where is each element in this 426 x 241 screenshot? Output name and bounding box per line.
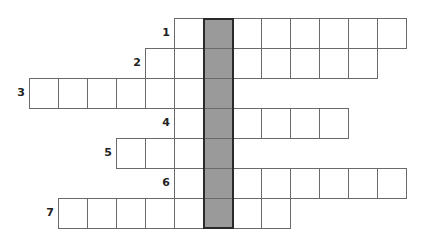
crossword-cell[interactable] bbox=[174, 18, 204, 49]
clue-number: 6 bbox=[158, 177, 170, 189]
shaded-answer-cell[interactable] bbox=[203, 108, 233, 139]
shaded-answer-cell[interactable] bbox=[203, 48, 233, 79]
crossword-cell[interactable] bbox=[87, 78, 117, 109]
crossword-cell[interactable] bbox=[261, 168, 291, 199]
clue-number: 1 bbox=[158, 27, 170, 39]
crossword-cell[interactable] bbox=[290, 48, 320, 79]
shaded-answer-cell[interactable] bbox=[203, 18, 233, 49]
crossword-cell[interactable] bbox=[319, 108, 349, 139]
crossword-cell[interactable] bbox=[116, 198, 146, 229]
crossword-cell[interactable] bbox=[174, 138, 204, 169]
crossword-cell[interactable] bbox=[377, 18, 407, 49]
crossword-cell[interactable] bbox=[261, 18, 291, 49]
crossword-cell[interactable] bbox=[58, 78, 88, 109]
crossword-cell[interactable] bbox=[290, 108, 320, 139]
crossword-cell[interactable] bbox=[174, 198, 204, 229]
clue-number: 5 bbox=[100, 147, 112, 159]
crossword-cell[interactable] bbox=[232, 198, 262, 229]
shaded-answer-cell[interactable] bbox=[203, 198, 233, 229]
crossword-cell[interactable] bbox=[348, 18, 378, 49]
crossword-cell[interactable] bbox=[261, 48, 291, 79]
crossword-cell[interactable] bbox=[174, 108, 204, 139]
crossword-cell[interactable] bbox=[174, 48, 204, 79]
crossword-cell[interactable] bbox=[87, 198, 117, 229]
crossword-cell[interactable] bbox=[145, 138, 175, 169]
crossword-cell[interactable] bbox=[232, 168, 262, 199]
crossword-cell[interactable] bbox=[290, 18, 320, 49]
crossword-cell[interactable] bbox=[29, 78, 59, 109]
crossword-cell[interactable] bbox=[261, 108, 291, 139]
crossword-cell[interactable] bbox=[174, 78, 204, 109]
crossword-cell[interactable] bbox=[348, 168, 378, 199]
crossword-cell[interactable] bbox=[145, 198, 175, 229]
crossword-cell[interactable] bbox=[145, 78, 175, 109]
crossword-cell[interactable] bbox=[348, 48, 378, 79]
crossword-cell[interactable] bbox=[174, 168, 204, 199]
crossword-cell[interactable] bbox=[116, 138, 146, 169]
shaded-answer-cell[interactable] bbox=[203, 138, 233, 169]
crossword-cell[interactable] bbox=[319, 18, 349, 49]
shaded-answer-cell[interactable] bbox=[203, 168, 233, 199]
crossword-cell[interactable] bbox=[232, 48, 262, 79]
crossword-cell[interactable] bbox=[232, 18, 262, 49]
clue-number: 4 bbox=[158, 117, 170, 129]
crossword-cell[interactable] bbox=[319, 168, 349, 199]
clue-number: 7 bbox=[42, 207, 54, 219]
crossword-cell[interactable] bbox=[58, 198, 88, 229]
clue-number: 3 bbox=[13, 87, 25, 99]
crossword-cell[interactable] bbox=[116, 78, 146, 109]
crossword-cell[interactable] bbox=[145, 48, 175, 79]
clue-number: 2 bbox=[129, 57, 141, 69]
crossword-cell[interactable] bbox=[319, 48, 349, 79]
crossword-cell[interactable] bbox=[290, 168, 320, 199]
crossword-cell[interactable] bbox=[261, 198, 291, 229]
shaded-answer-cell[interactable] bbox=[203, 78, 233, 109]
crossword-cell[interactable] bbox=[377, 168, 407, 199]
crossword-cell[interactable] bbox=[232, 108, 262, 139]
